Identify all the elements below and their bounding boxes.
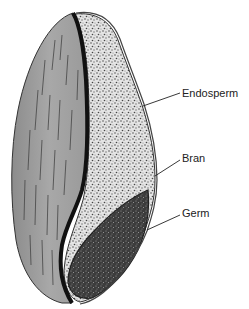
- label-germ: Germ: [182, 207, 210, 219]
- label-bran: Bran: [182, 152, 205, 164]
- label-endosperm: Endosperm: [182, 87, 238, 99]
- grain-illustration: [0, 0, 249, 309]
- germ-leader: [147, 215, 180, 230]
- bran-leader: [155, 160, 180, 176]
- endosperm-leader: [143, 93, 180, 106]
- grain-diagram: Endosperm Bran Germ: [0, 0, 249, 309]
